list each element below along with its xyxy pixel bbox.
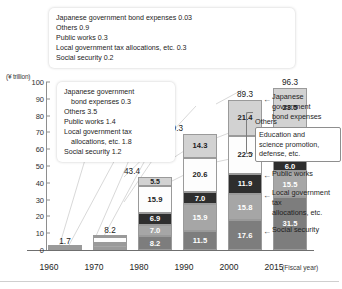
segment-others-1990: 20.6 (183, 158, 217, 193)
callout-1970-line-6: allocations, etc. 1.8 (64, 137, 168, 147)
bar-total-2015: 96.3 (267, 78, 313, 87)
segment-public-works-1990: 7.0 (183, 192, 217, 204)
x-label-1960: 1960 (24, 262, 74, 272)
legend-label-social-security: Social security (272, 225, 319, 235)
callout-1970-line-7: Social security 1.2 (64, 147, 168, 157)
callout-1970-line-1: Japanese government (64, 87, 168, 97)
y-tick-60: 60 (14, 145, 44, 154)
callout-1960: Japanese government bond expenses 0.03 O… (49, 8, 295, 68)
x-axis-unit-label: (Fiscal year) (282, 264, 318, 271)
callout-1960-line-4: Local government tax allocations, etc. 0… (56, 43, 288, 53)
legend-label-bond-line1: Japanese government (272, 92, 342, 112)
segment-others-1980: 15.9 (138, 186, 172, 213)
callout-1970-line-4: Public works 1.4 (64, 117, 168, 127)
y-tick-80: 80 (14, 111, 44, 120)
segment-public-works-1980: 6.9 (138, 213, 172, 225)
legend-label-education-line3: defense, etc. (259, 149, 337, 159)
bar-1960[interactable]: 1.7 (48, 247, 82, 250)
callout-1960-line-5: Social security 0.2 (56, 53, 288, 63)
legend-brace-others (246, 112, 253, 154)
legend-arrow-public-works-icon: ← (263, 172, 271, 180)
y-tick-30: 30 (14, 195, 44, 204)
bar-total-1980: 43.4 (109, 167, 155, 176)
bar-total-1960: 1.7 (42, 237, 88, 246)
y-tick-20: 20 (14, 212, 44, 221)
callout-1970: Japanese government bond expenses 0.3 Ot… (57, 82, 175, 162)
x-axis-line (27, 250, 314, 251)
legend-label-education-line2: science promotion, (259, 140, 337, 150)
y-tick-40: 40 (14, 178, 44, 187)
bar-total-1970: 8.2 (87, 226, 133, 235)
segment-bond-1980: 5.5 (138, 177, 172, 186)
callout-1970-line-3: Others 3.5 (64, 107, 168, 117)
bar-1990[interactable]: 14.3 20.6 7.0 15.9 11.5 69.3 (183, 134, 217, 250)
legend-label-bond-line2: bond expenses (272, 112, 342, 122)
legend-label-local-tax-line2: allocations, etc. (272, 208, 340, 218)
y-tick-100: 100 (14, 78, 44, 87)
legend-label-education-line1: Education and (259, 130, 337, 140)
callout-1970-line-2: bond expenses 0.3 (64, 97, 168, 107)
callout-1960-line-1: Japanese government bond expenses 0.03 (56, 13, 288, 23)
segment-social-security-1980: 8.2 (138, 236, 172, 250)
callout-1960-line-2: Others 0.9 (56, 23, 288, 33)
segment-local-tax-1990: 15.9 (183, 204, 217, 231)
callout-1960-line-3: Public works 0.3 (56, 33, 288, 43)
bar-1980[interactable]: 5.5 15.9 6.9 7.0 8.2 43.4 (138, 177, 172, 250)
segment-social-security-1970 (93, 248, 127, 250)
x-label-2000: 2000 (204, 262, 254, 272)
legend-label-local-tax: Local government tax allocations, etc. (272, 188, 340, 218)
y-tick-70: 70 (14, 128, 44, 137)
legend-label-public-works: Public works (272, 169, 313, 179)
segment-social-security-2000: 17.6 (228, 220, 262, 250)
segment-local-tax-2000: 15.8 (228, 194, 262, 221)
legend-label-others: Others (255, 117, 277, 127)
legend-arrow-local-tax-icon: ← (263, 192, 271, 200)
segment-bond-1990: 14.3 (183, 134, 217, 158)
legend-box-education: Education and science promotion, defense… (255, 127, 341, 162)
legend-label-local-tax-line1: Local government tax (272, 188, 340, 208)
x-label-1970: 1970 (69, 262, 119, 272)
bar-1970[interactable]: 8.2 (93, 236, 127, 250)
y-tick-0: 0 (14, 246, 44, 255)
x-label-1980: 1980 (114, 262, 164, 272)
segment-social-security-1960 (48, 248, 82, 250)
segment-local-tax-1980: 7.0 (138, 225, 172, 237)
bottom-divider (0, 281, 339, 282)
y-tick-10: 10 (14, 229, 44, 238)
legend-arrow-bond-icon: ← (263, 96, 271, 104)
legend-label-bond: Japanese government bond expenses (272, 92, 342, 122)
segment-public-works-2000: 11.9 (228, 174, 262, 194)
y-tick-50: 50 (14, 162, 44, 171)
x-label-1990: 1990 (159, 262, 209, 272)
segment-social-security-1990: 11.5 (183, 231, 217, 250)
bar-total-2000: 89.3 (222, 90, 268, 99)
y-tick-90: 90 (14, 94, 44, 103)
callout-1970-line-5: Local government tax (64, 127, 168, 137)
legend-arrow-social-security-icon: ← (263, 228, 271, 236)
